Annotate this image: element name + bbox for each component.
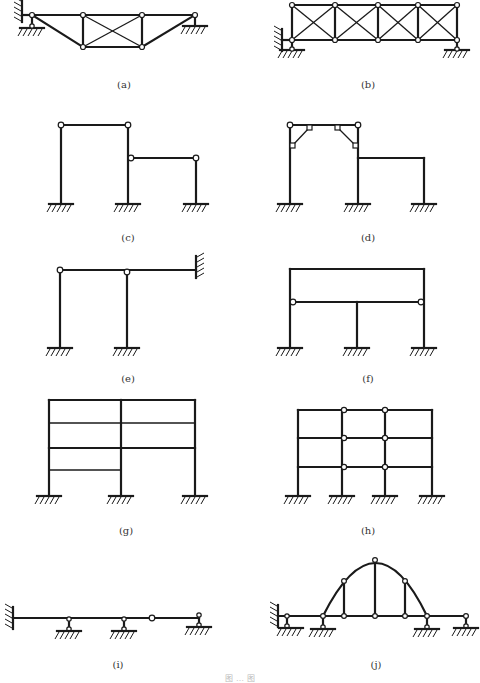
panel-h-frame: (h): [284, 407, 444, 536]
panel-f-label: (f): [362, 373, 374, 384]
panel-g-frame: (g): [35, 400, 207, 536]
panel-h-label: (h): [361, 525, 375, 536]
panel-d-label: (d): [361, 232, 375, 243]
panel-e-frame: (e): [46, 253, 204, 384]
panel-i-label: (i): [112, 659, 123, 670]
structural-diagrams-figure: (a) (b): [0, 0, 480, 683]
panel-a-label: (a): [117, 79, 131, 90]
panel-c-frame: (c): [47, 122, 208, 243]
figure-caption: 图 … 图: [225, 674, 254, 683]
panel-j-label: (j): [371, 659, 382, 670]
panel-a-truss: (a): [14, 0, 207, 90]
panel-f-frame: (f): [276, 269, 436, 384]
panel-g-label: (g): [119, 525, 133, 536]
panel-i-beam: (i): [5, 604, 211, 670]
panel-d-frame: (d): [276, 122, 436, 243]
panel-b-label: (b): [361, 79, 375, 90]
panel-j-arch: (j): [270, 558, 478, 670]
panel-e-label: (e): [121, 373, 135, 384]
panel-b-truss: (b): [274, 3, 469, 91]
panel-c-label: (c): [121, 232, 135, 243]
